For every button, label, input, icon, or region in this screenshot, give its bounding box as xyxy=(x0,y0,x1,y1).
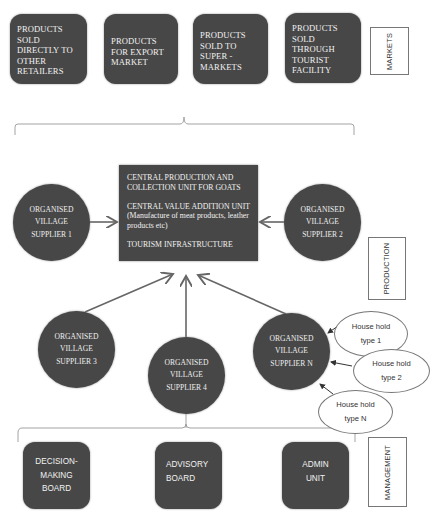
markets-bracket xyxy=(15,117,354,135)
management-section-label: MANAGEMENT xyxy=(368,437,407,507)
management-bracket xyxy=(18,424,355,442)
household-type-n: House hold type N xyxy=(318,390,393,434)
supplier-4-node: ORGANISED VILLAGE SUPPLIER 4 xyxy=(148,337,225,414)
central-value-addition-line: CENTRAL VALUE ADDITION UNIT (Manufacture… xyxy=(127,202,252,231)
markets-section-label: MARKETS xyxy=(370,27,409,75)
market-box-supermarkets: PRODUCTS SOLD TO SUPER - MARKETS xyxy=(193,14,268,84)
admin-unit-box: ADMIN UNIT xyxy=(282,442,349,509)
supplier-n-node: ORGANISED VILLAGE SUPPLIER N xyxy=(253,313,330,390)
supplier-3-node: ORGANISED VILLAGE SUPPLIER 3 xyxy=(38,311,115,388)
central-production-line: CENTRAL PRODUCTION AND COLLECTION UNIT F… xyxy=(127,173,252,193)
market-box-other-retailers: PRODUCTS SOLD DIRECTLY TO OTHER RETAILER… xyxy=(10,14,87,84)
decision-making-board-box: DECISION-MAKING BOARD xyxy=(23,442,90,509)
market-box-tourist-facility: PRODUCTS SOLD THROUGH TOURIST FACILITY xyxy=(285,13,361,83)
supplier-2-node: ORGANISED VILLAGE SUPPLIER 2 xyxy=(284,184,361,261)
central-production-unit: CENTRAL PRODUCTION AND COLLECTION UNIT F… xyxy=(119,165,258,261)
production-section-label: PRODUCTION xyxy=(368,237,406,300)
household-type-2: House hold type 2 xyxy=(353,349,430,393)
advisory-board-box: ADVISORY BOARD xyxy=(155,442,222,509)
supplier-1-node: ORGANISED VILLAGE SUPPLIER 1 xyxy=(13,184,90,261)
tourism-infrastructure-line: TOURISM INFRASTRUCTURE xyxy=(127,240,252,250)
market-box-export: PRODUCTS FOR EXPORT MARKET xyxy=(104,14,178,84)
